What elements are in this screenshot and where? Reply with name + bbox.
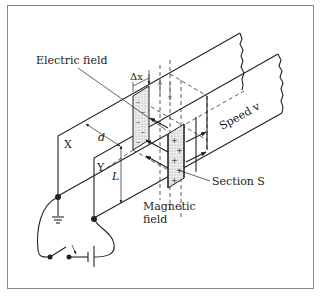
svg-text:–: – — [136, 137, 140, 146]
electric-field-leader — [78, 68, 166, 130]
section-label: Section S — [212, 175, 265, 188]
plate-x-label: X — [64, 138, 72, 151]
ground-icon — [52, 197, 64, 223]
svg-text:L: L — [111, 170, 119, 183]
d-dimension: d — [86, 124, 120, 146]
svg-text:+: + — [171, 156, 178, 165]
magnetic-field-arrows — [160, 80, 170, 100]
plate-y — [94, 54, 283, 218]
svg-text:–: – — [136, 97, 140, 106]
switch-icon — [50, 247, 66, 257]
svg-text:–: – — [141, 127, 145, 136]
svg-text:d: d — [98, 131, 105, 144]
svg-text:+: + — [171, 176, 178, 185]
magnetic-label-line2: field — [143, 213, 167, 226]
electric-field-label: Electric field — [36, 54, 107, 67]
plate-y-label: Y — [96, 161, 105, 174]
battery-icon — [88, 246, 94, 267]
circuit — [38, 194, 115, 267]
magnetic-label-line1: Magnetic — [143, 200, 196, 213]
svg-text:–: – — [136, 117, 140, 126]
svg-text:+: + — [171, 136, 178, 145]
transmission-line-diagram: – – – – – + + + + + Δx Electric field d — [0, 0, 320, 297]
svg-text:+: + — [176, 146, 183, 155]
l-dimension: L — [111, 146, 121, 203]
svg-text:Δx: Δx — [130, 71, 143, 82]
